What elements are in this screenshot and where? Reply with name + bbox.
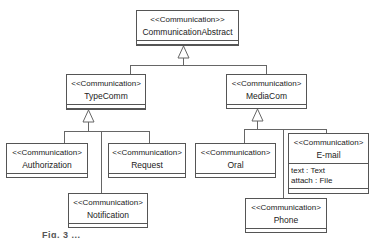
operations-compartment bbox=[196, 177, 275, 178]
stereotype-label: <<Communication> bbox=[289, 138, 368, 148]
operations-compartment bbox=[109, 177, 185, 178]
class-request[interactable]: <<Communication> Request bbox=[108, 143, 186, 178]
operations-compartment bbox=[246, 232, 326, 233]
operations-compartment bbox=[69, 227, 147, 228]
class-name: MediaCom bbox=[227, 91, 306, 101]
stereotype-label: <<Communication> bbox=[67, 79, 145, 89]
stereotype-label: <<Communication> bbox=[196, 148, 275, 158]
attributes-compartment: text : Text attach : File bbox=[289, 163, 368, 188]
class-name: E-mail bbox=[289, 150, 368, 160]
operations-compartment bbox=[67, 108, 145, 109]
class-name: CommunicationAbstract bbox=[137, 27, 238, 37]
operations-compartment bbox=[227, 108, 306, 109]
uml-class-diagram: <<Communication>> CommunicationAbstract … bbox=[0, 0, 375, 238]
class-authorization[interactable]: <<Communication> Authorization bbox=[6, 143, 88, 178]
class-notification[interactable]: <<Communication> Notification bbox=[68, 193, 148, 228]
operations-compartment bbox=[137, 44, 238, 45]
class-mediacom[interactable]: <<Communication> MediaCom bbox=[226, 74, 307, 109]
attribute-attach: attach : File bbox=[291, 176, 366, 186]
class-name: Oral bbox=[196, 160, 275, 170]
operations-compartment bbox=[289, 188, 368, 189]
class-name: Notification bbox=[69, 210, 147, 220]
stereotype-label: <<Communication>> bbox=[137, 15, 238, 25]
class-communication-abstract[interactable]: <<Communication>> CommunicationAbstract bbox=[136, 10, 239, 46]
class-phone[interactable]: <<Communication> Phone bbox=[245, 198, 327, 233]
figure-caption: Fig. 3 ... bbox=[42, 230, 81, 238]
stereotype-label: <<Communication> bbox=[7, 148, 87, 158]
class-name: Authorization bbox=[7, 160, 87, 170]
class-name: Phone bbox=[246, 215, 326, 225]
stereotype-label: <<Communication> bbox=[227, 79, 306, 89]
stereotype-label: <<Communication> bbox=[246, 203, 326, 213]
stereotype-label: <<Communication> bbox=[109, 148, 185, 158]
class-typecomm[interactable]: <<Communication> TypeComm bbox=[66, 74, 146, 110]
operations-compartment bbox=[7, 177, 87, 178]
class-email[interactable]: <<Communication> E-mail text : Text atta… bbox=[288, 133, 369, 194]
attribute-text: text : Text bbox=[291, 166, 366, 176]
class-name: Request bbox=[109, 160, 185, 170]
class-oral[interactable]: <<Communication> Oral bbox=[195, 143, 276, 178]
class-name: TypeComm bbox=[67, 91, 145, 101]
stereotype-label: <<Communication> bbox=[69, 198, 147, 208]
